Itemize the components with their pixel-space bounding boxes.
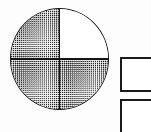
circle-quadrant-top-right (60, 9, 109, 59)
diagram-canvas (0, 0, 151, 132)
lower-rectangle (120, 99, 151, 132)
upper-rectangle (120, 57, 151, 92)
quartered-circle-figure (10, 8, 109, 110)
circle-quadrant-bottom-right (60, 59, 109, 109)
circle-horizontal-divider (10, 58, 109, 60)
circle-outline (10, 8, 109, 110)
circle-quadrant-top-left (11, 9, 60, 59)
circle-quadrant-bottom-left (11, 59, 60, 109)
